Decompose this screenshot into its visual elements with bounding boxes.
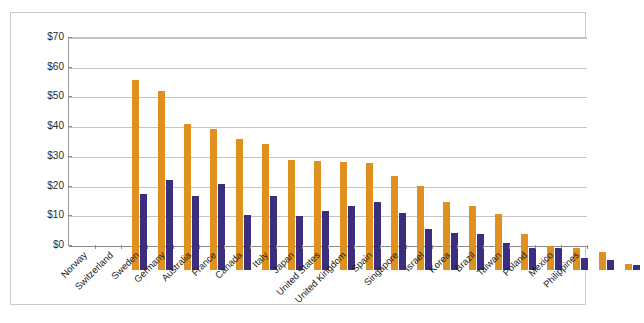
bar-group xyxy=(210,62,225,270)
y-axis-tick-mark xyxy=(68,156,72,157)
y-axis-tick-mark xyxy=(68,96,72,97)
bar-group xyxy=(262,62,277,270)
bar xyxy=(599,252,606,270)
bar xyxy=(132,80,139,270)
bar-group xyxy=(469,62,484,270)
y-axis-tick-label: $60 xyxy=(20,62,64,72)
bar xyxy=(158,91,165,270)
bar-group xyxy=(158,62,173,270)
bar-group xyxy=(184,62,199,270)
bar-group xyxy=(391,62,406,270)
bar-group xyxy=(547,62,562,270)
y-axis-tick-mark xyxy=(68,186,72,187)
bar-group xyxy=(495,62,510,270)
y-axis-tick-label: $50 xyxy=(20,91,64,101)
chart-frame: $0$10$20$30$40$50$60$70 NorwaySwitzerlan… xyxy=(10,12,586,305)
bars-layer xyxy=(127,62,644,270)
y-axis-tick-label: $10 xyxy=(20,210,64,220)
bar-group xyxy=(132,62,147,270)
bar-group xyxy=(340,62,355,270)
bar-group xyxy=(625,62,640,270)
y-axis-tick-mark xyxy=(68,37,72,38)
y-axis-tick-label: $70 xyxy=(20,32,64,42)
bar-group xyxy=(599,62,614,270)
gridline xyxy=(69,38,587,39)
y-axis-tick-mark xyxy=(68,126,72,127)
plot-area xyxy=(68,37,587,246)
y-axis-tick-mark xyxy=(68,67,72,68)
bar-group xyxy=(314,62,329,270)
y-axis-tick-label: $40 xyxy=(20,121,64,131)
bar-group xyxy=(573,62,588,270)
bar-group xyxy=(521,62,536,270)
y-axis: $0$10$20$30$40$50$60$70 xyxy=(16,37,64,245)
bar xyxy=(625,264,632,270)
bar-group xyxy=(366,62,381,270)
y-axis-tick-label: $20 xyxy=(20,181,64,191)
bar xyxy=(633,265,640,270)
bar-group xyxy=(417,62,432,270)
bar-group xyxy=(236,62,251,270)
bar-group xyxy=(443,62,458,270)
x-axis-labels: NorwaySwitzerlandSwedenGermanyAustraliaF… xyxy=(11,245,597,317)
bar xyxy=(607,260,614,270)
bar-group xyxy=(288,62,303,270)
y-axis-tick-mark xyxy=(68,215,72,216)
y-axis-tick-label: $30 xyxy=(20,151,64,161)
